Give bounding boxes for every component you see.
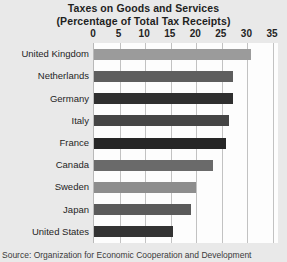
bar xyxy=(94,115,229,126)
bar-row xyxy=(94,160,278,171)
x-tick-label-15: 15 xyxy=(164,28,175,39)
x-tick-label-35: 35 xyxy=(266,28,277,39)
bar-row xyxy=(94,204,278,215)
category-label: United Kingdom xyxy=(21,48,89,59)
bar xyxy=(94,160,213,171)
bar xyxy=(94,71,233,82)
bar xyxy=(94,49,251,60)
plot-area xyxy=(93,43,278,243)
source-note: Source: Organization for Economic Cooper… xyxy=(2,250,287,260)
category-label: Netherlands xyxy=(38,70,89,81)
category-label: United States xyxy=(32,226,89,237)
category-label: France xyxy=(59,137,89,148)
x-tick-label-30: 30 xyxy=(241,28,252,39)
x-tick-label-10: 10 xyxy=(139,28,150,39)
x-tick-label-5: 5 xyxy=(116,28,122,39)
bar xyxy=(94,138,226,149)
category-label: Japan xyxy=(63,204,89,215)
bar xyxy=(94,204,191,215)
bar-series xyxy=(94,43,278,243)
bar xyxy=(94,93,233,104)
category-axis-labels: United KingdomNetherlandsGermanyItalyFra… xyxy=(0,43,89,243)
bar xyxy=(94,182,196,193)
category-label: Italy xyxy=(72,115,89,126)
category-label: Canada xyxy=(56,159,89,170)
chart-title-block: Taxes on Goods and Services (Percentage … xyxy=(0,2,287,28)
bar-row xyxy=(94,93,278,104)
category-label: Germany xyxy=(50,93,89,104)
chart-figure: Taxes on Goods and Services (Percentage … xyxy=(0,0,287,262)
chart-subtitle: (Percentage of Total Tax Receipts) xyxy=(0,15,287,28)
category-label: Sweden xyxy=(55,181,89,192)
bar-row xyxy=(94,182,278,193)
bar-row xyxy=(94,49,278,60)
x-tick-label-25: 25 xyxy=(215,28,226,39)
bar-row xyxy=(94,226,278,237)
bar xyxy=(94,226,173,237)
x-tick-label-0: 0 xyxy=(90,28,96,39)
x-axis-tick-labels: 05101520253035 xyxy=(93,28,272,42)
bar-row xyxy=(94,138,278,149)
x-tick-label-20: 20 xyxy=(190,28,201,39)
bar-row xyxy=(94,115,278,126)
bar-row xyxy=(94,71,278,82)
chart-title: Taxes on Goods and Services xyxy=(0,2,287,15)
